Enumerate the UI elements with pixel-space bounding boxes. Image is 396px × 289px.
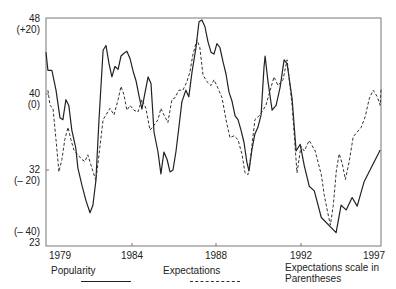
x-tick-1988: 1988 [205, 250, 227, 261]
y-tick-40: 40(0) [0, 88, 40, 110]
legend-expectations-label: Expectations [163, 265, 220, 276]
legend-popularity-line [81, 281, 131, 282]
plot-frame [46, 18, 381, 246]
popularity-line [46, 20, 380, 233]
y-tick-48: 48(+20) [0, 13, 40, 35]
x-tick-1984: 1984 [121, 250, 143, 261]
y-tick-23: (– 40)23 [0, 226, 40, 248]
x-tick-1992: 1992 [290, 250, 312, 261]
y-tick-32: 32(– 20) [0, 164, 40, 186]
legend-popularity-label: Popularity [51, 265, 95, 276]
scale-note: Expectations scale inParentheses [285, 262, 379, 284]
legend-expectations-line [190, 281, 240, 282]
x-tick-1979: 1979 [49, 250, 71, 261]
x-tick-1997: 1997 [363, 250, 385, 261]
line-chart [0, 0, 396, 289]
